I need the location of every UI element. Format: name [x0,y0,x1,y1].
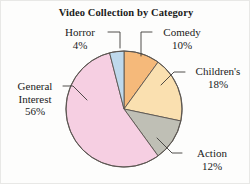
slice-label-childrens-name: Children's [196,65,241,77]
slice-label-action: Action 12% [183,147,241,172]
slice-label-general-interest-name: General [18,80,53,92]
slice-label-general-interest: General Interest 56% [4,80,66,118]
slice-label-action-value: 12% [183,160,241,173]
slice-label-action-name: Action [197,147,227,159]
slice-label-horror: Horror 4% [53,26,107,51]
slice-label-comedy-name: Comedy [163,26,200,38]
slice-label-comedy-value: 10% [153,39,211,52]
slice-label-comedy: Comedy 10% [153,26,211,51]
slice-label-general-interest-value: 56% [4,105,66,118]
slice-label-childrens: Children's 18% [186,65,250,90]
slice-label-general-interest-name2: Interest [4,93,66,106]
leader-line-horror [108,32,120,48]
pie-chart-figure: Video Collection by Category Horro [0,0,250,184]
slice-label-childrens-value: 18% [186,78,250,91]
slice-label-horror-name: Horror [65,26,95,38]
leader-line-comedy [141,32,152,56]
slice-label-horror-value: 4% [53,39,107,52]
